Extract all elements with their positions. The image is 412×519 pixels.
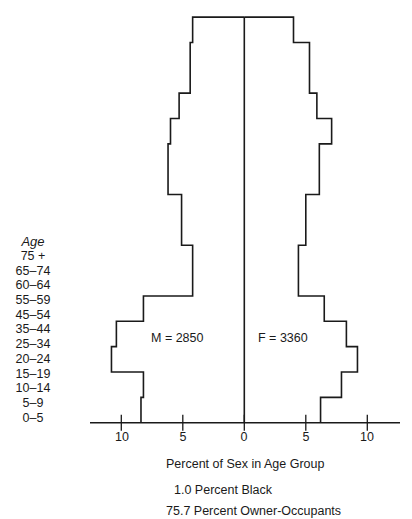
- female-pyramid-outline: [244, 17, 357, 423]
- age-label: 35–44: [6, 322, 60, 337]
- x-axis-title: Percent of Sex in Age Group: [166, 457, 324, 471]
- age-label: 75 +: [6, 249, 60, 264]
- age-label: 5–9: [6, 396, 60, 411]
- female-total-label: F = 3360: [258, 331, 308, 345]
- x-tick-label: 0: [241, 430, 248, 444]
- owner-occupants-stat: 75.7 Percent Owner-Occupants: [166, 504, 341, 518]
- age-label: 15–19: [6, 367, 60, 382]
- age-label: 20–24: [6, 352, 60, 367]
- male-total-label: M = 2850: [151, 331, 203, 345]
- male-pyramid-outline: [111, 17, 244, 423]
- age-label: 10–14: [6, 381, 60, 396]
- age-label: 60–64: [6, 278, 60, 293]
- age-axis-labels: Age 75 + 65–74 60–64 55–59 45–54 35–44 2…: [6, 234, 60, 425]
- x-tick-label: 5: [303, 430, 310, 444]
- age-axis-title: Age: [6, 234, 60, 249]
- age-label: 25–34: [6, 337, 60, 352]
- age-label: 65–74: [6, 264, 60, 279]
- age-label: 55–59: [6, 293, 60, 308]
- percent-black-stat: 1.0 Percent Black: [174, 483, 272, 497]
- age-label: 0–5: [6, 411, 60, 426]
- age-label: 45–54: [6, 308, 60, 323]
- x-tick-label: 10: [360, 430, 374, 444]
- x-tick-label: 5: [180, 430, 187, 444]
- population-pyramid-chart: [0, 0, 412, 519]
- x-tick-label: 10: [115, 430, 129, 444]
